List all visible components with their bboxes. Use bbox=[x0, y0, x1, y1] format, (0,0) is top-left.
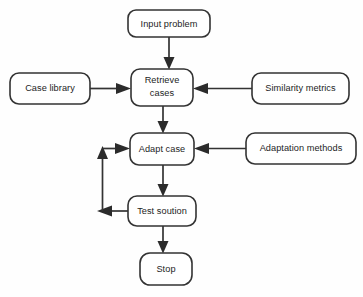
edge-methods-to-adapt bbox=[194, 143, 246, 154]
node-retrieve-cases-label-line1: Retrieve bbox=[145, 75, 180, 85]
node-adapt-case-label: Adapt case bbox=[139, 144, 185, 154]
node-adapt-case[interactable]: Adapt case bbox=[130, 133, 194, 165]
diagram-canvas: Input problem Case library Retrieve case… bbox=[0, 0, 363, 297]
node-stop[interactable]: Stop bbox=[140, 253, 192, 285]
node-test-solution-label: Test soution bbox=[137, 206, 187, 216]
flowchart-svg: Input problem Case library Retrieve case… bbox=[0, 0, 363, 297]
node-retrieve-cases[interactable]: Retrieve cases bbox=[131, 69, 193, 106]
node-test-solution[interactable]: Test soution bbox=[128, 196, 196, 226]
edge-adapt-to-test bbox=[158, 165, 169, 197]
node-stop-label: Stop bbox=[156, 264, 175, 274]
edge-test-to-adapt-feedback bbox=[97, 143, 130, 217]
node-similarity-metrics[interactable]: Similarity metrics bbox=[252, 73, 349, 104]
node-similarity-metrics-label: Similarity metrics bbox=[265, 83, 336, 93]
node-adaptation-methods[interactable]: Adaptation methods bbox=[246, 133, 356, 164]
edge-library-to-retrieve bbox=[90, 83, 131, 94]
edge-similarity-to-retrieve bbox=[193, 83, 252, 94]
edge-input-to-retrieve bbox=[164, 37, 175, 70]
node-input-problem[interactable]: Input problem bbox=[128, 10, 210, 37]
node-input-problem-label: Input problem bbox=[141, 19, 198, 29]
edge-test-to-stop bbox=[158, 226, 169, 254]
node-case-library[interactable]: Case library bbox=[10, 73, 90, 104]
edge-retrieve-to-adapt bbox=[158, 106, 169, 134]
node-adaptation-methods-label: Adaptation methods bbox=[260, 143, 343, 153]
node-case-library-label: Case library bbox=[25, 83, 75, 93]
node-retrieve-cases-label-line2: cases bbox=[150, 88, 175, 98]
